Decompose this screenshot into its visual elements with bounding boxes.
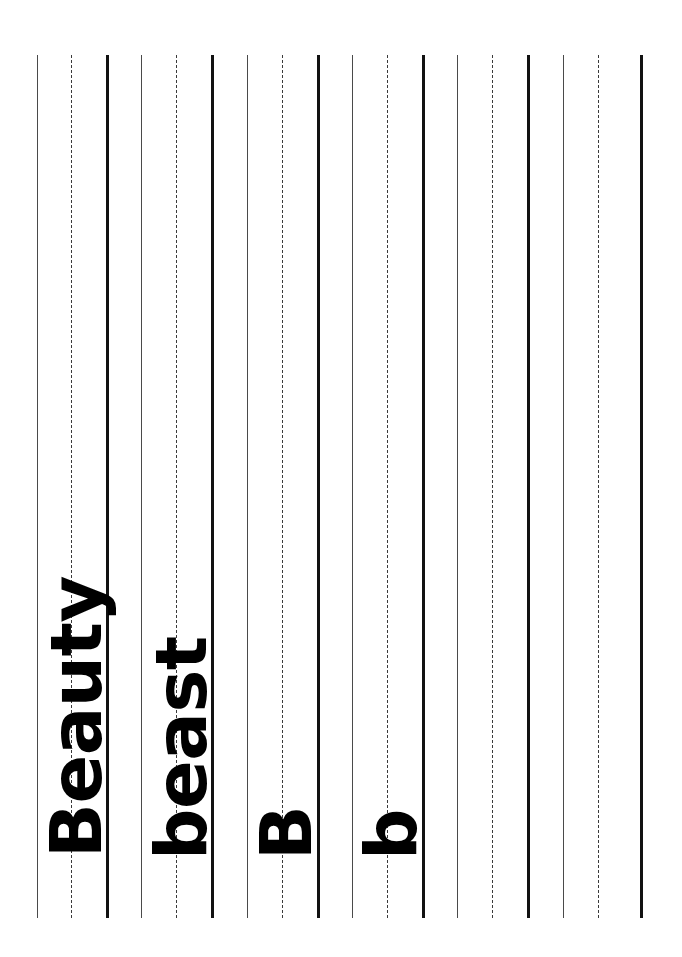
handwritten-letter-lowercase-b: b — [355, 809, 427, 860]
handwritten-letter-uppercase-b: B — [250, 806, 322, 860]
handwriting-layer: Beauty beast B b — [0, 0, 682, 957]
handwritten-word-beauty: Beauty — [40, 576, 112, 858]
handwritten-word-beast: beast — [145, 636, 217, 860]
worksheet-page: Beauty beast B b — [0, 0, 682, 957]
